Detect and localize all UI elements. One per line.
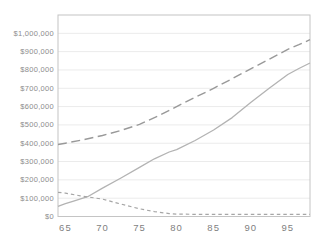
y-axis-label: $400,000 [20,139,54,148]
x-axis-label: 90 [244,222,257,233]
x-axis-label: 95 [281,222,294,233]
chart-canvas: $0$100,000$200,000$300,000$400,000$500,0… [0,0,322,247]
y-axis-label: $1,000,000 [13,29,54,38]
upper-long-dash-line [58,40,310,145]
y-axis-label: $0 [45,212,54,221]
y-axis-label: $900,000 [20,47,54,56]
y-axis-label: $800,000 [20,65,54,74]
plot-border [58,15,310,217]
x-axis-label: 85 [207,222,220,233]
y-axis-label: $600,000 [20,102,54,111]
x-axis-label: 75 [133,222,146,233]
y-axis-label: $500,000 [20,120,54,129]
x-axis-label: 70 [96,222,109,233]
x-axis-label: 65 [59,222,72,233]
middle-solid-line [58,63,310,206]
line-chart-figure: $0$100,000$200,000$300,000$400,000$500,0… [0,0,322,247]
x-axis-label: 80 [170,222,183,233]
lower-short-dash-line [58,192,310,214]
y-axis-label: $200,000 [20,175,54,184]
y-axis-label: $300,000 [20,157,54,166]
y-axis-label: $100,000 [20,194,54,203]
y-axis-label: $700,000 [20,84,54,93]
